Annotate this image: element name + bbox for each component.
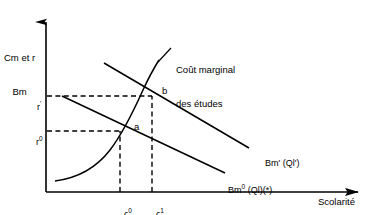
y-tick-r-zero-superscript: 0 (39, 135, 43, 142)
y-axis-title-line1: Cm et r (4, 52, 35, 63)
marginal-cost-annotation: Coût marginal des études (176, 42, 235, 132)
point-label-b: b (162, 85, 167, 96)
curve-label-bm-zero-name: Bm (228, 185, 242, 195)
curve-label-bm-prime-name: Bm' (265, 158, 280, 168)
curve-label-bm-prime-arg: (Ql') (283, 158, 300, 168)
y-tick-label-r-prime: r' (27, 89, 41, 123)
marginal-cost-annotation-line2: des études (176, 98, 235, 109)
x-tick-label-sigma-zero: ς0 (114, 196, 132, 215)
x-tick-label-sigma-one: ς1 (146, 196, 164, 215)
point-label-a: a (134, 121, 139, 132)
marginal-cost-leader-line (158, 48, 171, 62)
marginal-cost-annotation-line1: Coût marginal (176, 64, 235, 75)
curve-label-bm-zero-arg: (Ql)(*) (248, 185, 273, 195)
y-tick-r-prime-superscript: ' (40, 100, 41, 107)
curve-label-bm-zero: Bm0 (Ql)(*) (218, 172, 272, 206)
y-tick-label-r-zero: r0 (26, 124, 43, 158)
x-axis-title: Scolarité (318, 196, 355, 207)
x-tick-sigma-one-superscript: 1 (160, 207, 164, 214)
x-tick-sigma-zero-superscript: 0 (128, 207, 132, 214)
economics-diagram: Cm et r Bm Scolarité Coût marginal des é… (0, 0, 386, 215)
marginal-cost-curve (55, 60, 159, 181)
